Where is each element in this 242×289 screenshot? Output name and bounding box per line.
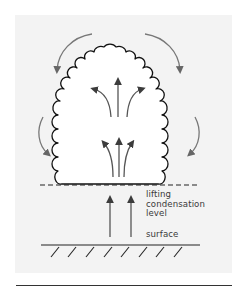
- downdraft-arrow-icon: [190, 117, 199, 154]
- surface-label: surface: [146, 230, 178, 240]
- convection-diagram: [0, 0, 242, 289]
- surface-ground: [41, 245, 200, 257]
- lcl-label: lifting condensation level: [146, 190, 205, 219]
- lcl-label-line-3: level: [146, 209, 205, 219]
- bottom-divider: [16, 285, 232, 286]
- cumulus-cloud: [52, 44, 168, 184]
- downdraft-arrow-icon: [39, 117, 48, 154]
- surface-updraft-arrows: [110, 199, 131, 237]
- downdraft-arrow-icon: [145, 34, 180, 70]
